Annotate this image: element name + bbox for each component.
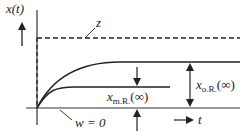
curve-m bbox=[37, 87, 170, 108]
w-leader bbox=[60, 110, 72, 120]
z-label: z bbox=[95, 15, 101, 30]
z-leader bbox=[85, 28, 95, 38]
y-axis-label: x(t) bbox=[5, 1, 24, 16]
x-axis-label: t bbox=[198, 112, 202, 127]
m-label: xm.R.(∞) bbox=[106, 89, 148, 106]
o-label: xo.R.(∞) bbox=[195, 77, 235, 94]
baseline-label: w = 0 bbox=[75, 115, 106, 130]
response-diagram: x(t) z w = 0 xm.R.(∞) xo.R.(∞) t bbox=[0, 0, 251, 139]
